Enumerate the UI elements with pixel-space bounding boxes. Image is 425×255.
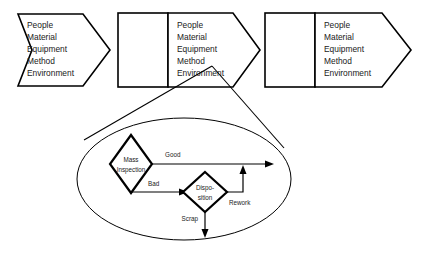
good-arrowhead	[265, 161, 274, 168]
edge-label-bad: Bad	[148, 180, 160, 187]
edge-label-good: Good	[165, 151, 181, 158]
segment-1-factor-people: People	[27, 20, 53, 30]
disposition-diamond	[183, 172, 227, 212]
segment-2-factor-equipment: Equipment	[177, 44, 218, 54]
process-segment-1: People Material Equipment Method Environ…	[18, 14, 110, 86]
process-segment-2: People Material Equipment Method Environ…	[118, 13, 260, 87]
segment-1-factor-method: Method	[27, 56, 55, 66]
segment-2-factor-people: People	[177, 20, 203, 30]
mass-inspection-label-line2: Inspection	[117, 166, 146, 174]
segment-3-process-box	[265, 13, 315, 87]
scrap-arrowhead	[202, 229, 209, 238]
segment-3-factor-material: Material	[324, 32, 354, 42]
process-flow-diagram: People Material Equipment Method Environ…	[0, 0, 425, 255]
rework-arrowhead	[240, 165, 247, 174]
segment-3-factor-people: People	[324, 20, 350, 30]
detail-callout-ellipse	[77, 118, 291, 240]
detail-callout-ellipse-group: Mass Inspection Dispo- sition Good Bad R…	[77, 118, 291, 240]
node-mass-inspection: Mass Inspection	[110, 135, 152, 193]
disposition-label-line2: sition	[198, 194, 213, 201]
mass-inspection-diamond	[110, 135, 152, 193]
segment-1-factor-equipment: Equipment	[27, 44, 68, 54]
segment-3-factor-environment: Environment	[324, 68, 372, 78]
segment-2-factor-method: Method	[177, 56, 205, 66]
node-disposition: Dispo- sition	[183, 172, 227, 212]
diagram-canvas: People Material Equipment Method Environ…	[0, 0, 425, 255]
disposition-label-line1: Dispo-	[196, 184, 214, 192]
edge-label-rework: Rework	[229, 199, 251, 206]
segment-3-factor-method: Method	[324, 56, 352, 66]
edge-label-scrap: Scrap	[182, 215, 199, 223]
segment-1-factor-material: Material	[27, 32, 57, 42]
segment-2-process-box	[118, 13, 168, 87]
mass-inspection-label-line1: Mass	[123, 156, 138, 163]
segment-3-factor-equipment: Equipment	[324, 44, 365, 54]
rework-flow-line	[227, 172, 243, 192]
process-segment-3: People Material Equipment Method Environ…	[265, 13, 411, 87]
segment-2-factor-environment: Environment	[177, 68, 225, 78]
segment-1-factor-environment: Environment	[27, 68, 75, 78]
segment-2-factor-material: Material	[177, 32, 207, 42]
